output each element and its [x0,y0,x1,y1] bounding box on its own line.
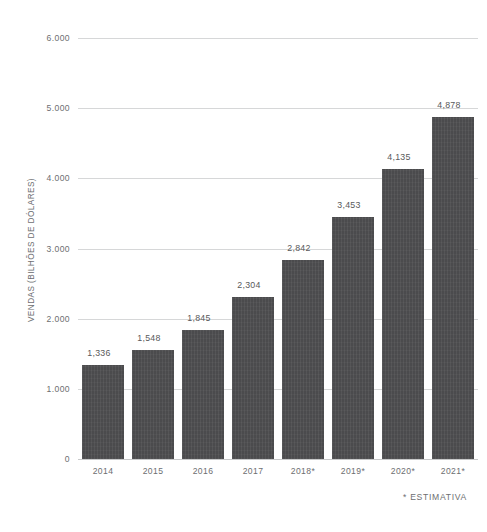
plot-area: 01.0002.0003.0004.0005.0006.000 1,3361,5… [78,38,478,459]
bar[interactable] [232,297,274,459]
bar[interactable] [82,365,124,459]
y-axis-tick-label: 1.000 [46,384,70,394]
bar-value-label: 4,135 [369,152,429,162]
y-axis-tick-label: 3.000 [46,244,70,254]
y-axis-title: VENDAS (BILHÕES DE DÓLARES) [25,100,39,400]
bar-chart: VENDAS (BILHÕES DE DÓLARES) 01.0002.0003… [0,0,487,532]
bar[interactable] [282,260,324,459]
bar-slot: 1,336 [78,38,128,459]
bar-slot: 3,453 [328,38,378,459]
bar[interactable] [332,217,374,459]
bar-value-label: 1,548 [119,333,179,343]
y-axis-tick-label: 4.000 [46,173,70,183]
bar-slot: 4,878 [428,38,478,459]
bar-value-label: 1,845 [169,313,229,323]
bar[interactable] [432,117,474,459]
bar-value-label: 1,336 [69,348,129,358]
x-axis-tick-label: 2021* [423,466,483,476]
bar[interactable] [182,330,224,459]
bar[interactable] [382,169,424,459]
y-axis-tick-label: 0 [65,454,70,464]
footnote-estimativa: * ESTIMATIVA [0,492,467,502]
y-axis-tick-label: 2.000 [46,314,70,324]
bar-value-label: 2,304 [219,280,279,290]
bar-value-label: 2,842 [269,243,329,253]
bar-value-label: 3,453 [319,200,379,210]
y-axis-tick-label: 6.000 [46,33,70,43]
bar-slot: 2,842 [278,38,328,459]
bar-value-label: 4,878 [419,100,479,110]
bar-slot: 1,845 [178,38,228,459]
bar-slot: 1,548 [128,38,178,459]
bars-group: 1,3361,5481,8452,3042,8423,4534,1354,878 [78,38,478,459]
gridline: 0 [78,459,478,460]
bar[interactable] [132,350,174,459]
y-axis-tick-label: 5.000 [46,103,70,113]
